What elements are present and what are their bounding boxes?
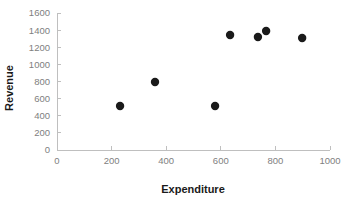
x-axis-title: Expenditure	[161, 183, 225, 195]
y-tick-label: 1600	[29, 7, 50, 18]
data-point-group	[116, 27, 306, 110]
x-tick-label: 0	[54, 155, 59, 166]
data-point	[211, 102, 219, 110]
x-tick-label: 200	[104, 155, 120, 166]
y-tick-label: 600	[34, 93, 50, 104]
y-tick-label: 0	[45, 144, 50, 155]
y-tick-label: 200	[34, 127, 50, 138]
x-axis-tick-marks	[57, 146, 330, 150]
y-tick-label: 400	[34, 110, 50, 121]
data-point	[151, 78, 159, 86]
y-tick-label: 1200	[29, 42, 50, 53]
x-tick-label: 1000	[319, 155, 340, 166]
scatter-chart: 02004006008001000120014001600 0200400600…	[0, 0, 350, 200]
x-tick-label: 400	[158, 155, 174, 166]
y-tick-label: 1400	[29, 25, 50, 36]
x-tick-label: 800	[267, 155, 283, 166]
data-point	[262, 27, 270, 35]
y-tick-label: 1000	[29, 59, 50, 70]
x-axis-tick-labels: 02004006008001000	[54, 155, 340, 166]
y-axis-tick-marks	[57, 13, 61, 150]
x-tick-label: 600	[213, 155, 229, 166]
data-point	[116, 102, 124, 110]
chart-canvas: 02004006008001000120014001600 0200400600…	[0, 0, 350, 200]
data-point	[298, 34, 306, 42]
data-point	[226, 31, 234, 39]
y-axis-tick-labels: 02004006008001000120014001600	[29, 7, 50, 155]
data-point	[254, 33, 262, 41]
y-tick-label: 800	[34, 76, 50, 87]
y-axis-title: Revenue	[3, 65, 15, 111]
